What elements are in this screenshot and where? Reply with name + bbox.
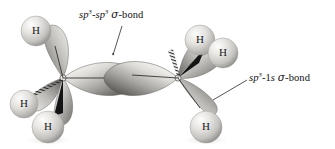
h-lower-right-sphere [190, 111, 222, 143]
orbital-diagram-figure: sp3-sp3 σ-bond sp3-1s σ-bond H H H H H H [0, 0, 335, 149]
annotation-sp3-sp3-suffix: -bond [118, 9, 143, 20]
annotation-sp3-1s-mid: s [271, 72, 275, 83]
orbital-lobe-central-right [104, 62, 178, 96]
orbital-lobe-lower-right [178, 78, 217, 115]
annotation-sp3-1s-sigma-bond: sp3-1s σ-bond [249, 72, 310, 84]
annotation-sp3-1s-prefix: sp [249, 72, 259, 83]
annotation-sp3-1s-dash: -1 [262, 72, 271, 83]
annotation-sp3-sp3-mid: sp [96, 9, 106, 20]
leader-line-sp3-1s [213, 80, 247, 100]
h-lower-left-outer-sphere [10, 90, 38, 118]
h-lower-left-front-sphere [32, 111, 64, 143]
annotation-sp3-sp3-sigma-bond: sp3-sp3 σ-bond [79, 9, 143, 21]
annotation-sp3-sp3-prefix: sp [79, 9, 89, 20]
annotation-sp3-1s-suffix: -bond [285, 72, 310, 83]
leader-line-sp3-sp3 [113, 26, 122, 55]
sigma-symbol-icon: σ [278, 71, 285, 83]
h-upper-left-sphere [21, 16, 51, 46]
h-upper-right-front-sphere [208, 38, 238, 68]
annotation-sp3-sp3-sup2: 3 [105, 8, 108, 15]
